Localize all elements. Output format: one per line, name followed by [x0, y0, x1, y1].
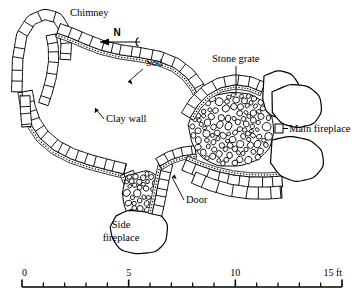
- clay-dot: [261, 174, 262, 175]
- clay-dot: [201, 104, 202, 105]
- clay-dot: [171, 161, 172, 162]
- cobble: [200, 149, 206, 157]
- clay-dot: [56, 34, 57, 35]
- clay-dot: [249, 174, 250, 175]
- clay-dot: [92, 168, 93, 169]
- clay-dot: [250, 89, 251, 90]
- clay-dot: [153, 195, 154, 196]
- clay-dot: [66, 158, 67, 159]
- clay-dot: [45, 145, 46, 146]
- clay-dot: [124, 57, 125, 58]
- side-fireplace-label-line2: fireplace: [103, 232, 140, 243]
- clay-dot: [151, 204, 152, 205]
- clay-dot: [214, 168, 215, 169]
- clay-dot: [112, 55, 113, 56]
- clay-dot: [95, 168, 96, 169]
- clay-dot: [106, 53, 107, 54]
- clay-dot: [139, 59, 140, 60]
- clay-dot: [33, 132, 34, 133]
- clay-dot: [30, 127, 31, 128]
- clay-dot: [255, 91, 256, 92]
- side-fireplace-label-line1: Side: [112, 219, 131, 230]
- clay-dot: [158, 172, 159, 173]
- clay-dot: [186, 157, 187, 158]
- clay-dot: [83, 165, 84, 166]
- clay-dot: [31, 129, 32, 130]
- clay-dot: [276, 174, 277, 175]
- clay-dot: [78, 43, 79, 44]
- clay-dot: [157, 175, 158, 176]
- clay-dot: [177, 73, 178, 74]
- cobble: [132, 205, 137, 210]
- chimney-label: Chimney: [70, 7, 109, 18]
- main-fireplace-label: Main fireplace: [289, 123, 351, 134]
- clay-dot: [240, 173, 241, 174]
- clay-dot: [154, 192, 155, 193]
- clay-dot: [205, 100, 206, 101]
- clay-dot: [121, 57, 122, 58]
- clay-dot: [52, 151, 53, 152]
- clay-dot: [158, 169, 159, 170]
- clay-dot: [191, 87, 192, 88]
- clay-dot: [176, 159, 177, 160]
- clay-dot: [70, 39, 71, 40]
- clay-dot: [214, 93, 215, 94]
- clay-dot: [217, 169, 218, 170]
- clay-dot: [168, 163, 169, 164]
- cobble: [223, 157, 229, 163]
- scale-label: 15 ft: [323, 267, 342, 278]
- clay-dot: [227, 88, 228, 89]
- clay-dot: [130, 58, 131, 59]
- clay-dot: [106, 171, 107, 172]
- clay-dot: [61, 156, 62, 157]
- clay-dot: [41, 142, 42, 143]
- clay-dot: [230, 87, 231, 88]
- clay-dot: [164, 66, 165, 67]
- clay-dot: [72, 41, 73, 42]
- cobble: [201, 109, 206, 114]
- clay-dot: [241, 87, 242, 88]
- cobble: [141, 182, 145, 186]
- east-lobe-outline: [272, 85, 321, 128]
- clay-dot: [184, 157, 185, 158]
- site-plan-figure: Chimney Sod Clay wall Stone grate Main f…: [0, 0, 364, 301]
- clay-dot: [166, 164, 167, 165]
- clay-dot: [167, 67, 168, 68]
- clay-dot: [220, 169, 221, 170]
- clay-dot: [219, 90, 220, 91]
- clay-dot: [222, 89, 223, 90]
- clay-dot: [199, 106, 200, 107]
- clay-dot: [258, 92, 259, 93]
- cobble: [205, 156, 210, 161]
- clay-dot: [92, 49, 93, 50]
- clay-dot: [182, 76, 183, 77]
- clay-dot: [231, 172, 232, 173]
- clay-dot: [115, 55, 116, 56]
- cobble: [145, 171, 149, 176]
- clay-dot: [225, 171, 226, 172]
- clay-dot: [152, 198, 153, 199]
- clay-dot: [61, 36, 62, 37]
- clay-dot: [115, 174, 116, 175]
- scale-label: 5: [126, 267, 131, 278]
- clay-dot: [109, 172, 110, 173]
- clay-dot: [36, 137, 37, 138]
- clay-dot: [152, 201, 153, 202]
- clay-dot: [121, 174, 122, 175]
- clay-dot: [100, 170, 101, 171]
- cobble: [261, 138, 266, 142]
- clay-dot: [192, 90, 193, 91]
- clay-dot: [19, 92, 20, 93]
- clay-dot: [74, 162, 75, 163]
- cobble: [219, 143, 225, 149]
- clay-dot: [267, 174, 268, 175]
- clay-dot: [83, 45, 84, 46]
- clay-dot: [156, 178, 157, 179]
- west-outer-blocks: [20, 96, 32, 127]
- sod-label: Sod: [146, 57, 163, 68]
- clay-dot: [247, 88, 248, 89]
- clay-dot: [191, 118, 192, 119]
- clay-dot: [273, 174, 274, 175]
- cobble: [132, 201, 137, 206]
- clay-dot: [203, 164, 204, 165]
